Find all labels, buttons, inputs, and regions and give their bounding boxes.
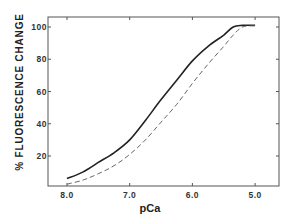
plot-frame [48, 17, 279, 186]
x-tick-label: 8.0 [60, 190, 73, 200]
solid-curve [67, 25, 255, 178]
y-tick-label: 80 [37, 54, 47, 64]
y-axis: 20406080100 [31, 22, 279, 161]
y-tick-label: 20 [37, 151, 47, 161]
y-tick-label: 100 [31, 22, 47, 32]
y-axis-title: % FLUORESCENCE CHANGE [14, 13, 25, 170]
y-tick-label: 40 [37, 119, 47, 129]
x-tick-label: 7.0 [123, 190, 136, 200]
dashed-curve [67, 25, 255, 184]
chart: 20406080100 8.07.06.05.0 pCa % FLUORESCE… [0, 0, 295, 223]
x-axis-title: pCa [140, 202, 162, 214]
x-tick-label: 6.0 [186, 190, 199, 200]
x-tick-label: 5.0 [248, 190, 261, 200]
y-tick-label: 60 [37, 87, 47, 97]
x-axis: 8.07.06.05.0 [60, 17, 261, 200]
